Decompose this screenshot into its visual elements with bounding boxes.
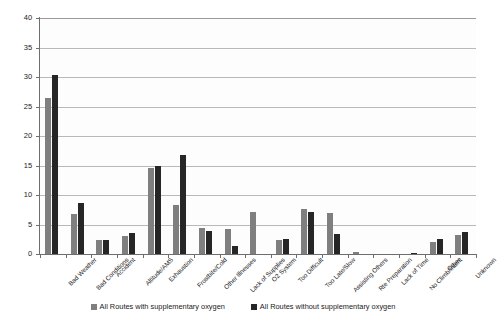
x-axis-label: Altitude/AMS: [143, 256, 174, 287]
y-tick-label: 5: [6, 221, 32, 229]
bars-layer: [40, 18, 476, 254]
bar: [103, 240, 109, 254]
y-tick-label: 35: [6, 44, 32, 52]
legend-label: All Routes with supplementary oxygen: [100, 303, 225, 311]
bar-group: [399, 18, 425, 254]
legend-label: All Routes without supplementary oxygen: [260, 303, 396, 311]
bar: [301, 209, 307, 254]
y-tick-label: 20: [6, 132, 32, 140]
bar-group: [348, 18, 374, 254]
bar: [78, 203, 84, 254]
y-tick-label: 40: [6, 14, 32, 22]
bar: [225, 229, 231, 254]
x-axis-label: Bad Weather: [67, 256, 98, 287]
bar-group: [271, 18, 297, 254]
legend-swatch-icon: [251, 304, 257, 310]
legend-item[interactable]: All Routes with supplementary oxygen: [91, 303, 225, 311]
bar-group: [66, 18, 92, 254]
bar-group: [322, 18, 348, 254]
legend-swatch-icon: [91, 304, 97, 310]
bar-group: [143, 18, 169, 254]
y-tick-label: 25: [6, 103, 32, 111]
bar-group: [168, 18, 194, 254]
bar: [308, 212, 314, 254]
bar-group: [450, 18, 476, 254]
bar: [173, 205, 179, 254]
bar: [334, 234, 340, 254]
bar-group: [425, 18, 451, 254]
bar: [283, 239, 289, 254]
y-tick-label: 10: [6, 191, 32, 199]
x-axis-label: Too Difficult: [296, 256, 324, 284]
bar: [180, 155, 186, 254]
bar: [45, 98, 51, 254]
bar: [52, 75, 58, 254]
bar: [199, 228, 205, 254]
bar: [327, 213, 333, 254]
bar: [155, 166, 161, 254]
bar: [206, 231, 212, 254]
bar: [122, 236, 128, 254]
bar-group: [373, 18, 399, 254]
bar: [430, 242, 436, 254]
bar: [276, 240, 282, 254]
legend-item[interactable]: All Routes without supplementary oxygen: [251, 303, 396, 311]
bar: [129, 233, 135, 254]
bar: [96, 240, 102, 254]
bar-group: [40, 18, 66, 254]
bar-group: [220, 18, 246, 254]
bar: [71, 214, 77, 254]
bar: [232, 246, 238, 254]
y-tick-label: 15: [6, 162, 32, 170]
bar: [462, 232, 468, 254]
x-axis-label: Unknown: [474, 256, 498, 280]
bar: [148, 168, 154, 254]
bar: [250, 212, 256, 254]
x-axis-label: Too Late/Slow: [324, 256, 357, 289]
bar: [437, 239, 443, 254]
bar-group: [296, 18, 322, 254]
bar-group: [245, 18, 271, 254]
bar-group: [194, 18, 220, 254]
bar-group: [117, 18, 143, 254]
y-tick-label: 30: [6, 73, 32, 81]
chart-legend: All Routes with supplementary oxygenAll …: [0, 303, 486, 311]
x-axis-labels: Bad WeatherBad ConditionsAccidentAltitud…: [0, 254, 486, 302]
bar: [455, 235, 461, 254]
bar-group: [91, 18, 117, 254]
